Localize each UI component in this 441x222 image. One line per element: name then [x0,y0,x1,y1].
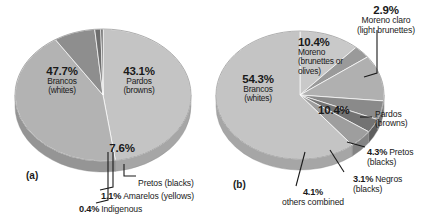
slice-percent-pretos-a: 7.6% [100,142,144,154]
callout-indigenous-a: 0.4%Indigenous [79,198,142,215]
callout-translation-pardos-b: (browns) [375,119,408,128]
callout-pretos-b: 4.3%Pretos (blacks) [367,141,413,168]
slice-label-pardos-a: 43.1% Pardos (browns) [101,65,177,96]
callout-translation-moreno-claro-b: (light brunettes) [333,26,439,35]
callout-moreno-claro-b: 2.9% Moreno claro (light brunettes) [333,4,439,35]
callout-others-b: 4.1% others combined [270,188,356,207]
callout-pardos-b: Pardos (browns) [375,110,408,129]
callout-name-indigenous-a: Indigenous [101,204,142,214]
callout-percent-negros-b: 3.1% [353,174,373,184]
callout-percent-indigenous-a: 0.4% [79,204,99,214]
slice-label-pretos-percent-a: 7.6% [100,142,144,154]
slice-label-moreno-b: 10.4% Moreno (brunettes or olives) [298,36,364,76]
panel-tag-b: (b) [233,180,246,191]
callout-translation-pretos-b: (blacks) [367,158,413,167]
callout-name-negros-b: Negros [375,174,402,184]
slice-translation-moreno-b: (brunettes or olives) [298,57,360,75]
slice-translation-brancos-a: (whites) [24,86,100,95]
pie-chart-figure: 47.7% Brancos (whites) 43.1% Pardos (bro… [0,0,441,222]
callout-percent-pretos-b: 4.3% [367,147,387,157]
callout-negros-b: 3.1%Negros (blacks) [353,168,402,195]
slice-label-brancos-a: 47.7% Brancos (whites) [24,65,100,96]
slice-label-brancos-b: 54.3% Brancos (whites) [226,73,290,104]
callout-name-others-b: others combined [270,198,356,207]
callout-translation-negros-b: (blacks) [353,185,402,194]
panel-tag-a: (a) [26,171,38,182]
slice-label-pardos-percent-b: 10.4% [318,100,350,117]
slice-translation-brancos-b: (whites) [226,94,290,103]
slice-percent-pardos-b: 10.4% [318,104,350,116]
callout-name-pretos-b: Pretos [389,147,413,157]
slice-translation-pardos-a: (browns) [101,86,177,95]
